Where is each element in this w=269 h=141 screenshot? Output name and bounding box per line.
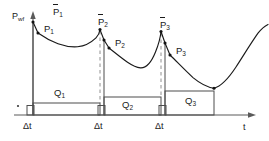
- time-step-label-1: Δt: [23, 122, 32, 131]
- point-pressure-label-3-sub: 3: [182, 50, 186, 57]
- overbar-rule-icon: [160, 17, 165, 18]
- overbar-rule-icon: [53, 4, 58, 5]
- pressure-curve: [33, 22, 268, 88]
- marker-p3-bar: [163, 41, 166, 44]
- marker-p1-bar: [31, 20, 34, 23]
- rate-label-1-sub: 1: [61, 92, 65, 99]
- rate-rect-q1: [33, 103, 100, 115]
- avg-pressure-label-1-sub: 1: [59, 11, 63, 18]
- marker-p3: [168, 53, 171, 56]
- rate-label-2: Q2: [122, 100, 133, 110]
- point-pressure-label-2-sub: 2: [121, 42, 125, 49]
- cycle-risers: [33, 22, 165, 115]
- avg-pressure-label-3: P3: [160, 20, 170, 30]
- x-axis-label: t: [243, 123, 246, 132]
- y-axis-label-sub: wf: [18, 15, 24, 22]
- marker-p2: [107, 46, 110, 49]
- time-step-label-2: Δt: [94, 122, 103, 131]
- marker-min-1: [98, 28, 101, 31]
- point-pressure-label-3: P3: [176, 46, 186, 56]
- avg-pressure-label-1: P1: [53, 7, 63, 17]
- rate-label-3: Q3: [185, 96, 196, 106]
- point-pressure-label-1: P1: [44, 24, 54, 34]
- point-pressure-label-2: P2: [115, 38, 125, 48]
- point-pressure-label-1-sub: 1: [50, 28, 54, 35]
- y-axis-label: Pwf: [12, 12, 24, 21]
- marker-p2-bar: [102, 38, 105, 41]
- marker-min-3: [212, 87, 215, 90]
- curve-point-markers: [31, 20, 215, 89]
- dashed-droppers: [100, 31, 161, 103]
- pressure-transient-figure: Pwf t P1 P1 Q1 Δt P2 P2 Q2 Δt P3 P3 Q3 Δ…: [0, 0, 269, 141]
- avg-pressure-label-3-sub: 3: [166, 24, 170, 31]
- avg-pressure-label-2-sub: 2: [104, 21, 108, 28]
- rate-label-3-sub: 3: [192, 100, 196, 107]
- avg-pressure-label-2: P2: [98, 17, 108, 27]
- delta-t-boxes: [27, 106, 166, 116]
- rate-label-1: Q1: [54, 88, 65, 98]
- figure-canvas: [0, 0, 269, 141]
- marker-min-2: [159, 30, 162, 33]
- rate-label-2-sub: 2: [129, 104, 133, 111]
- marker-p1: [36, 31, 39, 34]
- time-step-label-3: Δt: [155, 122, 164, 131]
- overbar-rule-icon: [98, 14, 103, 15]
- left-tick-dot: [17, 105, 19, 107]
